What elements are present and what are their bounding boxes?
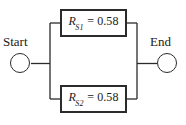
reliability-block-diagram: Start End RS1 = 0.58 RS2 = 0.58 <box>0 0 186 125</box>
block-rs1: RS1 = 0.58 <box>60 9 127 37</box>
block-rs2-subscript: S2 <box>75 99 83 108</box>
block-rs1-value: 0.58 <box>97 14 118 28</box>
block-rs2-text: RS2 = 0.58 <box>68 91 118 106</box>
block-rs1-text: RS1 = 0.58 <box>68 15 118 30</box>
end-node-circle <box>157 53 177 73</box>
block-rs2: RS2 = 0.58 <box>60 85 127 113</box>
block-rs1-subscript: S1 <box>75 23 83 32</box>
end-node-label: End <box>150 35 171 48</box>
block-rs2-value: 0.58 <box>97 90 118 104</box>
start-node-label: Start <box>3 35 28 48</box>
start-node-circle <box>10 53 30 73</box>
